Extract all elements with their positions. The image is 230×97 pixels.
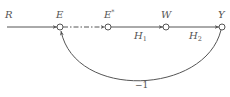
- label-w: W: [161, 9, 172, 20]
- signal-flow-graph: R E E* W Y H1 H2 −1: [0, 0, 230, 97]
- gain-h1: H1: [133, 30, 147, 43]
- node-y: [219, 24, 225, 30]
- gain-h2: H2: [188, 30, 202, 43]
- gain-feedback: −1: [135, 80, 148, 90]
- label-estar: E*: [103, 8, 115, 20]
- label-r: R: [4, 9, 13, 20]
- label-e: E: [55, 9, 64, 20]
- node-w: [163, 24, 169, 30]
- node-estar: [105, 24, 111, 30]
- label-y: Y: [218, 9, 226, 20]
- node-e: [57, 24, 63, 30]
